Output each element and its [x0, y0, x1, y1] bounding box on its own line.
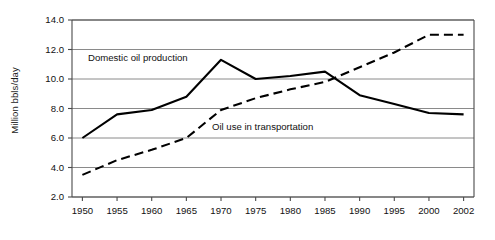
- chart-plot-svg: 2.04.06.08.010.012.014.0 195019551960196…: [0, 0, 495, 240]
- x-tick-label: 1970: [210, 205, 231, 216]
- x-tick-label: 1965: [176, 205, 197, 216]
- y-tick-label: 10.0: [45, 73, 64, 84]
- x-tick-label: 1950: [72, 205, 93, 216]
- x-tick-label: 1995: [384, 205, 405, 216]
- y-tick-group: 2.04.06.08.010.012.014.0: [45, 14, 72, 202]
- y-tick-label: 4.0: [51, 162, 64, 173]
- x-tick-label: 1985: [314, 205, 335, 216]
- y-tick-label: 6.0: [51, 132, 64, 143]
- x-tick-label: 2000: [418, 205, 439, 216]
- x-tick-group: 1950195519601965197019751980198519901995…: [72, 197, 475, 216]
- series-annotation: Domestic oil production: [88, 52, 188, 63]
- x-tick-label: 1960: [141, 205, 162, 216]
- y-tick-label: 2.0: [51, 191, 64, 202]
- x-tick-label: 1980: [280, 205, 301, 216]
- x-tick-label: 1955: [106, 205, 127, 216]
- x-tick-label: 1990: [349, 205, 370, 216]
- y-tick-label: 12.0: [45, 44, 64, 55]
- y-tick-label: 8.0: [51, 103, 64, 114]
- oil-line-chart: Million bbls/day 2.04.06.08.010.012.014.…: [0, 0, 495, 240]
- x-tick-label: 1975: [245, 205, 266, 216]
- x-tick-label: 2002: [453, 205, 474, 216]
- y-tick-label: 14.0: [45, 14, 64, 25]
- series-annotation: Oil use in transportation: [212, 121, 313, 132]
